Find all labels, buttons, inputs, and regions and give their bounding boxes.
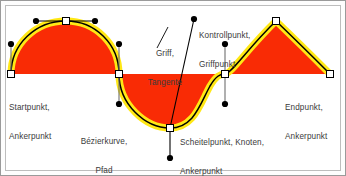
label-endpunkt-line2: Ankerpunkt [285, 132, 327, 142]
label-endpunkt-line1: Endpunkt, [285, 103, 327, 113]
anchor-point-endpunkt[interactable] [327, 71, 334, 78]
label-scheitelpunkt-line1: Scheitelpunkt, Knoten, [180, 138, 264, 148]
anchor-point-scheitelpunkt[interactable] [167, 125, 174, 132]
control-point-middle-lower[interactable] [116, 101, 122, 107]
label-bezierkurve: Bézierkurve, Pfad [71, 118, 137, 176]
label-endpunkt: Endpunkt, Ankerpunkt [285, 84, 327, 161]
anchor-point-middle[interactable] [116, 71, 123, 78]
label-griff: Griff, Tangente [137, 30, 193, 107]
control-point-right-lower[interactable] [222, 101, 228, 107]
label-scheitelpunkt-line2: Ankerpunkt [180, 167, 264, 176]
label-startpunkt: Startpunkt, Ankerpunkt [9, 84, 51, 161]
label-kontrollpunkt: Kontrollpunkt, Griffpunkt [199, 12, 250, 89]
label-startpunkt-line1: Startpunkt, [9, 103, 51, 113]
label-bezierkurve-line1: Bézierkurve, [71, 137, 137, 147]
control-point-middle-upper[interactable] [116, 41, 122, 47]
label-kontrollpunkt-line2: Griffpunkt [199, 60, 250, 70]
label-bezierkurve-line2: Pfad [71, 166, 137, 176]
label-griff-line1: Griff, [137, 49, 193, 59]
label-kontrollpunkt-line1: Kontrollpunkt, [199, 31, 250, 41]
control-point-kontrollpunkt[interactable] [191, 16, 197, 22]
anchor-point-peak[interactable] [273, 18, 280, 25]
diagram-stage: Startpunkt, Ankerpunkt Bézierkurve, Pfad… [0, 0, 346, 176]
control-point-startpunkt-upper[interactable] [8, 41, 14, 47]
control-point-scheitelpunkt-lower[interactable] [167, 155, 173, 161]
control-point-top-left[interactable] [33, 18, 39, 24]
label-startpunkt-line2: Ankerpunkt [9, 132, 51, 142]
anchor-point-startpunkt[interactable] [8, 71, 15, 78]
control-point-top-right[interactable] [92, 18, 98, 24]
label-griff-line2: Tangente [137, 78, 193, 88]
label-scheitelpunkt: Scheitelpunkt, Knoten, Ankerpunkt [180, 119, 264, 176]
anchor-point-arch-apex[interactable] [63, 18, 70, 25]
